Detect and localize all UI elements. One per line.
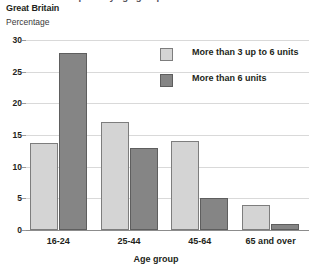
region-label: Great Britain	[6, 3, 59, 13]
gridline	[26, 40, 309, 41]
axis-baseline	[26, 230, 309, 231]
bar	[200, 198, 228, 230]
legend-swatch-icon	[160, 74, 173, 87]
y-tick-label: 25	[2, 67, 22, 77]
x-axis-title: Age group	[0, 254, 312, 264]
bar	[101, 122, 129, 230]
chart-legend: More than 3 up to 6 unitsMore than 6 uni…	[160, 44, 310, 96]
y-axis-ticks: 051015202530	[0, 40, 22, 230]
y-tick-label: 10	[2, 162, 22, 172]
y-tick-label: 20	[2, 98, 22, 108]
bar	[171, 141, 199, 230]
y-tick-label: 0	[2, 225, 22, 235]
y-tick-label: 5	[2, 193, 22, 203]
y-tick-label: 15	[2, 130, 22, 140]
x-tick-label: 16-24	[47, 236, 70, 246]
x-tick-label: 45-64	[188, 236, 211, 246]
bar	[271, 224, 299, 230]
legend-label: More than 3 up to 6 units	[192, 47, 299, 57]
x-tick-label: 65 and over	[246, 236, 296, 246]
y-axis-unit-label: Percentage	[6, 17, 49, 27]
chart-container: Alcohol consumption by age group Great B…	[0, 0, 312, 274]
bar	[242, 205, 270, 230]
y-tick-label: 30	[2, 35, 22, 45]
legend-label: More than 6 units	[192, 73, 267, 83]
bar	[59, 53, 87, 230]
legend-item: More than 6 units	[160, 70, 310, 96]
bar	[130, 148, 158, 230]
legend-swatch-icon	[160, 48, 173, 61]
legend-item: More than 3 up to 6 units	[160, 44, 310, 70]
bar	[30, 143, 58, 230]
x-tick-label: 25-44	[118, 236, 141, 246]
